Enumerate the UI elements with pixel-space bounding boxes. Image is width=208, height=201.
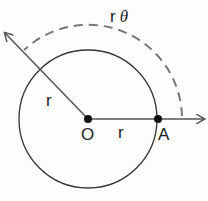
point-a <box>154 115 162 123</box>
radius-label-lower: r <box>118 123 124 142</box>
point-label-a: A <box>158 125 170 144</box>
center-label-o: O <box>81 125 94 144</box>
radius-label-upper: r <box>46 91 52 110</box>
arc-length-label: rθ <box>110 7 128 26</box>
diagram-canvas: rθ r r O A <box>0 0 208 201</box>
arc-length-diagram: rθ r r O A <box>0 0 208 201</box>
center-point-o <box>84 115 92 123</box>
